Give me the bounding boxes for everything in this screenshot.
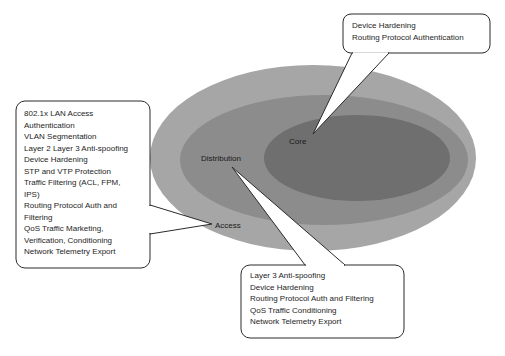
access-feature-item: Traffic Filtering (ACL, FPM,: [24, 177, 128, 189]
core-feature-list: Device Hardening Routing Protocol Authen…: [352, 20, 464, 43]
distribution-feature-item: Routing Protocol Auth and Filtering: [250, 293, 374, 305]
core-layer-ellipse: [264, 115, 450, 201]
access-feature-item: Network Telemetry Export: [24, 246, 128, 258]
access-feature-item: 802.1x LAN Access: [24, 108, 128, 120]
access-feature-item: Verification, Conditioning: [24, 235, 128, 247]
distribution-feature-item: QoS Traffic Conditioning: [250, 305, 374, 317]
access-feature-item: Filtering: [24, 212, 128, 224]
core-feature-item: Routing Protocol Authentication: [352, 32, 464, 44]
core-label: Core: [289, 137, 307, 146]
distribution-feature-list: Layer 3 Anti-spoofing Device Hardening R…: [250, 270, 374, 328]
access-feature-item: QoS Traffic Marketing,: [24, 223, 128, 235]
distribution-feature-item: Layer 3 Anti-spoofing: [250, 270, 374, 282]
access-feature-item: IPS): [24, 189, 128, 201]
access-feature-item: VLAN Segmentation: [24, 131, 128, 143]
access-feature-item: Layer 2 Layer 3 Anti-spoofing: [24, 143, 128, 155]
distribution-feature-item: Network Telemetry Export: [250, 316, 374, 328]
access-feature-item: STP and VTP Protection: [24, 166, 128, 178]
access-feature-item: Routing Protocol Auth and: [24, 200, 128, 212]
access-feature-list: 802.1x LAN Access Authentication VLAN Se…: [24, 108, 128, 258]
access-feature-item: Device Hardening: [24, 154, 128, 166]
access-feature-item: Authentication: [24, 120, 128, 132]
distribution-feature-item: Device Hardening: [250, 282, 374, 294]
core-feature-item: Device Hardening: [352, 20, 464, 32]
access-label: Access: [215, 221, 241, 230]
distribution-label: Distribution: [201, 154, 241, 163]
